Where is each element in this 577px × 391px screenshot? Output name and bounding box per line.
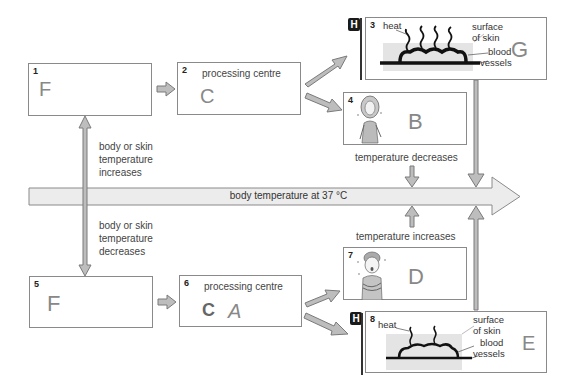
vessels-line2: vessels xyxy=(473,348,505,359)
box-5[interactable]: 5 F xyxy=(29,276,153,328)
processing-centre-title: processing centre xyxy=(202,68,281,79)
up-label-line1: body or skin xyxy=(99,140,153,153)
badge-line xyxy=(361,313,363,375)
surface-of-skin-label: surface of skin xyxy=(472,21,503,43)
surface-of-skin-label: surface of skin xyxy=(473,314,504,336)
arrow-2-to-3 xyxy=(305,56,347,87)
box-number: 7 xyxy=(348,250,353,260)
scribbled-letter: C xyxy=(202,300,215,321)
box-8[interactable]: 8 heat surface of skin blood vessels E xyxy=(365,311,547,373)
box3-down-arrow xyxy=(468,80,484,187)
higher-tier-badge: H xyxy=(348,18,360,31)
arrow-5-to-6 xyxy=(158,295,176,309)
up-arrow-label: body or skin temperature increases xyxy=(99,140,153,179)
badge-line xyxy=(360,18,362,80)
box-3[interactable]: 3 heat surface of skin blood vessels G xyxy=(365,17,547,80)
answer-letter: A xyxy=(228,300,241,323)
surface-line2: of skin xyxy=(473,325,504,336)
answer-letter: E xyxy=(522,332,535,355)
surface-line1: surface xyxy=(472,21,503,32)
box-7[interactable]: 7 D xyxy=(343,247,467,300)
blood-vessels-label: blood vessels xyxy=(473,337,505,359)
vessels-line1: blood xyxy=(473,337,505,348)
box-number: 1 xyxy=(33,66,38,76)
up-label-line2: temperature xyxy=(99,153,153,166)
heat-label: heat xyxy=(383,21,402,31)
arrow-6-to-8 xyxy=(304,313,348,335)
down-label-line1: body or skin xyxy=(99,219,153,232)
person-shivering-icon xyxy=(354,250,390,300)
box-number: 2 xyxy=(182,65,187,75)
answer-letter: F xyxy=(39,78,51,101)
main-axis-label: body temperature at 37 °C xyxy=(0,190,577,201)
up-label-line3: increases xyxy=(99,166,153,179)
arrow-2-to-4 xyxy=(305,93,342,112)
box8-up-arrow xyxy=(468,206,484,310)
processing-centre-title: processing centre xyxy=(204,281,283,292)
box-number: 6 xyxy=(184,278,189,288)
answer-letter: B xyxy=(408,109,423,135)
down-label-line3: decreases xyxy=(99,245,153,258)
box-6[interactable]: 6 processing centre C A xyxy=(179,275,302,327)
heat-label: heat xyxy=(378,320,397,330)
arrow-1-to-2 xyxy=(157,82,175,96)
arrow-6-to-7 xyxy=(305,290,340,307)
vessels-line2: vessels xyxy=(480,57,512,68)
temperature-increases-label: temperature increases xyxy=(356,230,456,243)
person-sweating-icon xyxy=(354,95,386,145)
surface-line2: of skin xyxy=(472,32,503,43)
down-label-line2: temperature xyxy=(99,232,153,245)
down-arrow-label: body or skin temperature decreases xyxy=(99,219,153,258)
answer-letter: F xyxy=(47,291,60,317)
box-4[interactable]: 4 B xyxy=(343,92,467,145)
blood-vessels-label: blood vessels xyxy=(480,46,512,68)
box-1[interactable]: 1 F xyxy=(28,63,152,116)
box-number: 5 xyxy=(34,279,39,289)
temperature-decreases-label: temperature decreases xyxy=(355,151,458,164)
surface-line1: surface xyxy=(473,314,504,325)
decrease-arrow xyxy=(405,166,419,187)
box-2[interactable]: 2 processing centre C xyxy=(177,62,301,115)
vessels-line1: blood xyxy=(480,46,512,57)
increase-arrow xyxy=(405,206,419,227)
answer-letter: G xyxy=(511,37,528,63)
answer-letter: C xyxy=(200,85,214,108)
answer-letter: D xyxy=(408,264,424,290)
box-number: 4 xyxy=(348,95,353,105)
